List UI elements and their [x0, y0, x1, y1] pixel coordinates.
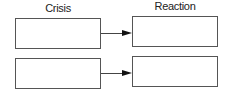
reaction-box-1[interactable] [132, 16, 218, 47]
arrow-1 [101, 33, 123, 34]
crisis-box-2[interactable] [15, 58, 101, 89]
arrow-head-1-icon [122, 30, 132, 36]
arrow-2 [101, 73, 123, 74]
arrow-head-2-icon [122, 70, 132, 76]
crisis-box-1[interactable] [15, 18, 101, 49]
crisis-header: Crisis [15, 2, 101, 14]
reaction-box-2[interactable] [132, 56, 218, 87]
reaction-header: Reaction [132, 0, 218, 12]
